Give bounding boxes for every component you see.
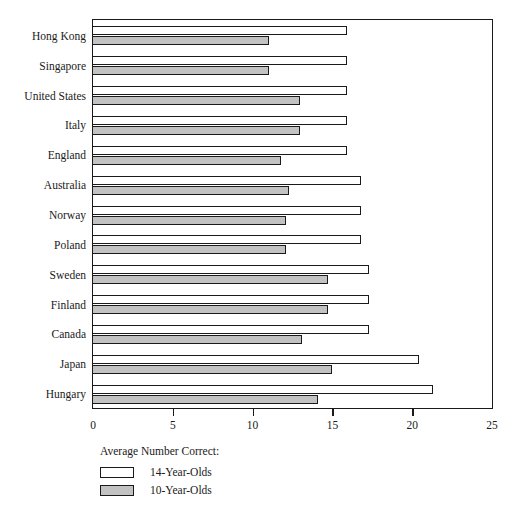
value-axis: 0510152025 xyxy=(93,409,493,439)
legend-swatch-icon-white xyxy=(100,467,134,478)
bar-10-year-olds xyxy=(92,66,269,75)
chart-legend: Average Number Correct: 14-Year-Olds 10-… xyxy=(100,444,360,499)
category-label-hungary: Hungary xyxy=(0,388,86,400)
legend-label-14-year-olds: 14-Year-Olds xyxy=(150,466,212,479)
bar-10-year-olds xyxy=(92,395,318,404)
category-label-finland: Finland xyxy=(0,299,86,311)
bar-10-year-olds xyxy=(92,245,286,254)
x-tick-label-10: 10 xyxy=(247,419,259,432)
bar-14-year-olds xyxy=(92,295,369,304)
category-label-singapore: Singapore xyxy=(0,60,86,72)
category-axis-labels: Hong KongSingaporeUnited StatesItalyEngl… xyxy=(0,20,86,408)
x-tick-mark xyxy=(173,409,174,416)
legend-swatch-icon-gray xyxy=(100,485,134,496)
bar-14-year-olds xyxy=(92,56,347,65)
bar-10-year-olds xyxy=(92,186,289,195)
bar-14-year-olds xyxy=(92,355,419,364)
legend-item-14-year-olds: 14-Year-Olds xyxy=(100,463,360,481)
bar-14-year-olds xyxy=(92,176,361,185)
bar-14-year-olds xyxy=(92,235,361,244)
category-label-japan: Japan xyxy=(0,358,86,370)
bar-10-year-olds xyxy=(92,305,328,314)
category-label-australia: Australia xyxy=(0,179,86,191)
bars-layer xyxy=(93,20,492,408)
bar-14-year-olds xyxy=(92,26,347,35)
bar-14-year-olds xyxy=(92,146,347,155)
category-label-italy: Italy xyxy=(0,119,86,131)
category-label-poland: Poland xyxy=(0,239,86,251)
bar-10-year-olds xyxy=(92,365,332,374)
legend-item-10-year-olds: 10-Year-Olds xyxy=(100,481,360,499)
x-tick-label-25: 25 xyxy=(486,419,498,432)
clipped-caption xyxy=(0,508,512,516)
x-tick-mark xyxy=(412,409,413,416)
category-label-england: England xyxy=(0,149,86,161)
bar-14-year-olds xyxy=(92,116,347,125)
x-tick-mark xyxy=(253,409,254,416)
category-label-united-states: United States xyxy=(0,90,86,102)
bar-14-year-olds xyxy=(92,325,369,334)
bar-14-year-olds xyxy=(92,265,369,274)
bar-10-year-olds xyxy=(92,36,269,45)
bar-10-year-olds xyxy=(92,96,300,105)
bar-14-year-olds xyxy=(92,385,433,394)
bar-10-year-olds xyxy=(92,335,302,344)
x-tick-label-20: 20 xyxy=(406,419,418,432)
bar-14-year-olds xyxy=(92,86,347,95)
bar-10-year-olds xyxy=(92,216,286,225)
bar-14-year-olds xyxy=(92,206,361,215)
legend-label-10-year-olds: 10-Year-Olds xyxy=(150,484,212,497)
bar-chart: Hong KongSingaporeUnited StatesItalyEngl… xyxy=(0,0,512,516)
category-label-sweden: Sweden xyxy=(0,269,86,281)
category-label-hong-kong: Hong Kong xyxy=(0,30,86,42)
bar-10-year-olds xyxy=(92,156,281,165)
x-tick-label-0: 0 xyxy=(90,419,96,432)
category-label-norway: Norway xyxy=(0,209,86,221)
x-tick-label-15: 15 xyxy=(327,419,339,432)
x-tick-mark xyxy=(332,409,333,416)
category-label-canada: Canada xyxy=(0,328,86,340)
bar-10-year-olds xyxy=(92,126,300,135)
legend-title: Average Number Correct: xyxy=(100,444,360,458)
x-tick-label-5: 5 xyxy=(170,419,176,432)
bar-10-year-olds xyxy=(92,275,328,284)
